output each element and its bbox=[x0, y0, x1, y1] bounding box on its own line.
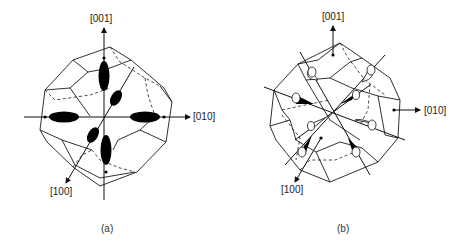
valley-cone bbox=[307, 67, 318, 80]
valley-cone bbox=[362, 65, 375, 82]
valley-cone-filled bbox=[292, 93, 314, 104]
zone-edge bbox=[70, 88, 90, 116]
hidden-edge bbox=[92, 150, 135, 172]
hidden-edge bbox=[145, 78, 155, 116]
valley-ellipsoid-top bbox=[99, 61, 110, 91]
hidden-edge bbox=[73, 150, 92, 167]
zone-point bbox=[331, 53, 334, 56]
panel-b: [001] [010] [100] (b) bbox=[264, 11, 446, 234]
diagram-canvas: [001] [010] [100] (a) bbox=[0, 0, 469, 250]
zone-point bbox=[392, 108, 395, 111]
panel-a: [001] [010] [100] (a) bbox=[24, 13, 215, 234]
label-b-100: [100] bbox=[281, 184, 303, 195]
hidden-edge bbox=[300, 150, 360, 170]
zone-point bbox=[104, 170, 107, 173]
zone-edge bbox=[45, 72, 88, 90]
zone-point bbox=[102, 56, 105, 59]
label-a-001: [001] bbox=[90, 13, 112, 24]
valley-ellipsoid-bottom bbox=[101, 135, 112, 165]
hidden-edge bbox=[110, 47, 160, 86]
zone-edge bbox=[113, 130, 166, 150]
valley-ellipsoid-back bbox=[107, 88, 124, 108]
label-b-010: [010] bbox=[424, 105, 446, 116]
caption-a: (a) bbox=[101, 223, 113, 234]
label-b-001: [001] bbox=[322, 11, 344, 22]
caption-b: (b) bbox=[337, 223, 349, 234]
valley-ellipsoid-front bbox=[84, 125, 101, 145]
zone-edge bbox=[316, 142, 378, 162]
hidden-edge bbox=[340, 43, 385, 95]
label-a-010: [010] bbox=[193, 111, 215, 122]
valley-ellipsoid-left bbox=[49, 112, 79, 123]
zone-edge bbox=[62, 140, 135, 178]
valley-ellipsoid-right bbox=[130, 112, 160, 123]
zone-point bbox=[162, 115, 165, 118]
label-a-100: [100] bbox=[50, 186, 72, 197]
zone-edge bbox=[160, 86, 172, 102]
zone-point bbox=[43, 115, 46, 118]
zone-point bbox=[319, 136, 322, 139]
zone-edge bbox=[378, 96, 398, 138]
hidden-edge bbox=[360, 84, 370, 125]
